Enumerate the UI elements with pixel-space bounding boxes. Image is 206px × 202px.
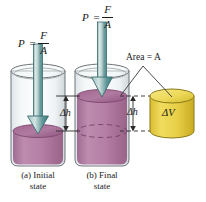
caption-final: (b) Final state	[70, 170, 134, 193]
delta-h-left-label: Δh	[60, 108, 71, 118]
pressure-label-initial-equals: =	[29, 38, 36, 49]
caption-initial-line2: state	[4, 181, 72, 192]
pressure-label-initial-lhs: P	[18, 38, 25, 49]
pressure-label-initial-denominator: A	[38, 45, 49, 57]
pressure-label-final-lhs: P	[82, 12, 89, 23]
force-arrow-final-shaft	[98, 22, 107, 83]
delta-v-cylinder-top	[150, 89, 194, 103]
delta-v-label: ΔV	[162, 108, 175, 119]
caption-initial: (a) Initial state	[4, 170, 72, 193]
pressure-label-final-equals: =	[93, 12, 100, 23]
pressure-label-final-fraction: F A	[102, 4, 113, 30]
pressure-label-initial-fraction: F A	[38, 30, 49, 56]
delta-h-right-label: Δh	[127, 107, 138, 117]
caption-initial-line1: (a) Initial	[4, 170, 72, 181]
beaker-final-liquid	[77, 96, 127, 165]
pressure-label-final-numerator: F	[102, 4, 113, 16]
pressure-label-initial: P = F A	[18, 30, 49, 56]
pressure-label-final: P = F A	[82, 4, 113, 30]
caption-final-line2: state	[70, 181, 134, 192]
caption-final-line1: (b) Final	[70, 170, 134, 181]
area-label: Area = A	[126, 53, 161, 63]
figure-pressure-volume: P = F A P = F A Δh Δh Area = A ΔV (a) In…	[0, 0, 206, 202]
pressure-label-initial-numerator: F	[38, 30, 49, 42]
pressure-label-final-denominator: A	[102, 19, 113, 31]
